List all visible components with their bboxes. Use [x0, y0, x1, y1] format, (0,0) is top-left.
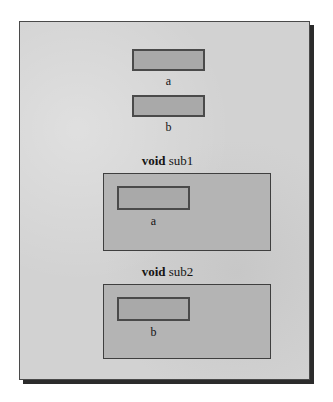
variable-label-b-global: b	[112, 121, 225, 133]
subroutine-name-sub2: sub2	[169, 264, 194, 279]
subroutine-name-sub1: sub1	[169, 153, 194, 168]
variable-label-b-sub2: b	[97, 326, 210, 338]
keyword-void-sub1: void	[142, 153, 166, 168]
variable-label-a-sub1: a	[97, 215, 210, 227]
figure-root: a b void sub1 a void sub2 b	[0, 0, 333, 402]
subroutine-label-sub2: void sub2	[80, 265, 255, 278]
subroutine-frame-sub1: a	[103, 173, 271, 251]
variable-box-b-sub2	[117, 297, 190, 321]
variable-box-b-global	[132, 95, 205, 117]
diagram-page: a b void sub1 a void sub2 b	[19, 21, 310, 380]
keyword-void-sub2: void	[142, 264, 166, 279]
variable-box-a-sub1	[117, 186, 190, 210]
subroutine-label-sub1: void sub1	[80, 154, 255, 167]
variable-box-a-global	[132, 49, 205, 71]
subroutine-frame-sub2: b	[103, 284, 271, 359]
variable-label-a-global: a	[112, 75, 225, 87]
